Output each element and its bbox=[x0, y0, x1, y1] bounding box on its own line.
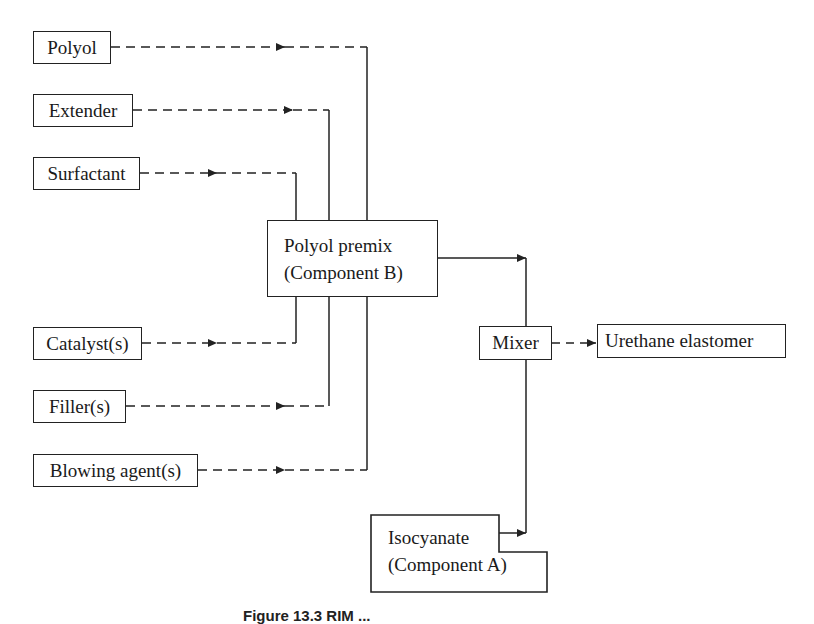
output-label: Urethane elastomer bbox=[605, 329, 753, 353]
input-box-catalyst: Catalyst(s) bbox=[33, 327, 142, 360]
output-box: Urethane elastomer bbox=[597, 324, 786, 358]
input-label: Filler(s) bbox=[49, 395, 110, 419]
premix-title: Polyol premix bbox=[284, 232, 392, 259]
input-box-blowing-agent: Blowing agent(s) bbox=[33, 454, 198, 487]
mixer-label: Mixer bbox=[492, 331, 538, 355]
figure-caption: Figure 13.3 RIM ... bbox=[243, 607, 371, 624]
isocyanate-subtitle: (Component A) bbox=[388, 551, 507, 578]
input-box-filler: Filler(s) bbox=[33, 390, 126, 423]
input-label: Blowing agent(s) bbox=[50, 459, 181, 483]
input-box-surfactant: Surfactant bbox=[33, 157, 140, 190]
isocyanate-label: Isocyanate (Component A) bbox=[388, 524, 507, 578]
mixer-box: Mixer bbox=[479, 326, 552, 360]
premix-subtitle: (Component B) bbox=[284, 259, 403, 286]
input-label: Polyol bbox=[47, 36, 97, 60]
input-label: Surfactant bbox=[47, 162, 125, 186]
input-box-polyol: Polyol bbox=[33, 31, 111, 64]
isocyanate-title: Isocyanate bbox=[388, 524, 507, 551]
premix-box: Polyol premix (Component B) bbox=[267, 220, 438, 297]
input-label: Catalyst(s) bbox=[46, 332, 128, 356]
input-box-extender: Extender bbox=[33, 94, 133, 127]
input-label: Extender bbox=[49, 99, 118, 123]
